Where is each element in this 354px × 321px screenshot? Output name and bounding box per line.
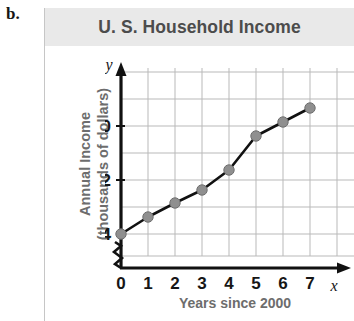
data-point — [251, 131, 261, 141]
y-axis-variable-label: y — [105, 60, 113, 74]
x-tick-label: 5 — [251, 274, 260, 293]
x-tick-label: 7 — [305, 274, 314, 293]
x-tick-label: 0 — [116, 274, 125, 293]
x-axis — [120, 263, 351, 274]
data-point — [197, 185, 207, 195]
plot-area: 60 52 44 0 1 2 3 4 5 6 7 y x — [105, 60, 354, 300]
x-tick-label: 4 — [224, 274, 234, 293]
x-tick-label: 2 — [170, 274, 179, 293]
data-point — [116, 229, 126, 239]
x-tick-label: 3 — [197, 274, 206, 293]
chart-title: U. S. Household Income — [98, 17, 301, 38]
part-label: b. — [6, 4, 20, 24]
chart-body: Annual Income (thousands of dollars) Yea… — [45, 50, 354, 321]
vertical-gridlines — [148, 68, 337, 256]
data-point — [170, 198, 180, 208]
x-tick-label: 1 — [143, 274, 152, 293]
y-tick-label: 44 — [105, 225, 112, 244]
data-point — [305, 103, 315, 113]
data-point — [224, 165, 234, 175]
data-points — [116, 103, 315, 239]
chart-title-band: U. S. Household Income — [45, 8, 354, 48]
horizontal-gridlines — [121, 72, 354, 256]
data-point — [143, 212, 153, 222]
y-tick-label: 52 — [105, 171, 111, 190]
x-tick-labels: 0 1 2 3 4 5 6 7 — [116, 274, 314, 293]
x-tick-label: 6 — [278, 274, 287, 293]
y-tick-label: 60 — [105, 117, 111, 136]
y-tick-labels: 60 52 44 — [105, 117, 112, 244]
chart-card: U. S. Household Income Annual Income (th… — [44, 8, 353, 321]
y-axis-title-line-1: Annual Income — [76, 112, 94, 216]
data-point — [278, 117, 288, 127]
x-axis-variable-label: x — [329, 277, 337, 294]
